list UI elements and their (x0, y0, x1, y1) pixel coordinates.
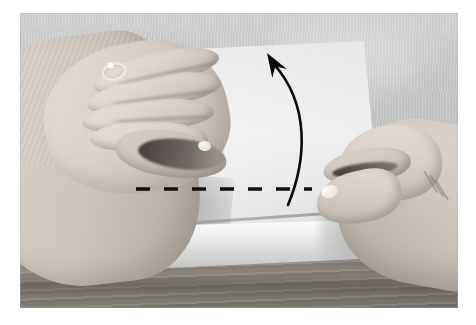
curved-motion-arrow-head (267, 53, 287, 78)
photo-caption (20, 310, 458, 322)
photograph (20, 13, 458, 308)
screenshot-root (0, 0, 476, 325)
annotation-layer (20, 13, 458, 308)
curved-motion-arrow-shaft (274, 64, 302, 205)
